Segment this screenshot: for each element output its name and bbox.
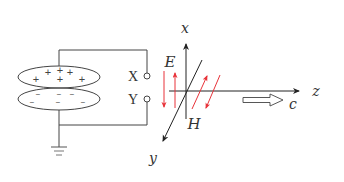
- negative-plate: − − − − − −: [18, 88, 100, 110]
- electric-field-label: E: [164, 53, 176, 71]
- axes: x z y: [148, 20, 320, 166]
- terminal-y-label: Y: [128, 92, 138, 107]
- charge-plus: +: [45, 66, 51, 78]
- charge-minus: −: [81, 98, 86, 107]
- magnetic-field-label: H: [186, 115, 201, 133]
- charge-minus: −: [70, 90, 75, 99]
- charge-plus: +: [33, 73, 39, 85]
- terminal-x-label: X: [128, 69, 138, 84]
- charge-minus: −: [56, 98, 61, 107]
- charge-plus: +: [79, 73, 85, 85]
- y-axis-label: y: [148, 150, 158, 166]
- charge-plus: +: [67, 66, 73, 78]
- positive-plate: + + + + + +: [18, 64, 100, 88]
- charge-plus: +: [57, 64, 63, 76]
- charge-minus: −: [36, 90, 41, 99]
- propagation-arrow-icon: [243, 94, 283, 106]
- x-axis-label: x: [181, 20, 189, 36]
- h-field-arrow-up: [192, 76, 207, 109]
- ground-icon: [51, 147, 67, 155]
- fields: E H c: [164, 53, 298, 133]
- speed-of-light-label: c: [289, 96, 297, 112]
- charge-minus: −: [30, 98, 35, 107]
- circuit: + + + + + + − − − − − − X Y: [18, 50, 150, 155]
- z-axis-label: z: [311, 83, 320, 99]
- terminal-y: [144, 96, 150, 102]
- em-wave-diagram: + + + + + + − − − − − − X Y x z: [0, 0, 344, 182]
- terminal-x: [144, 73, 150, 79]
